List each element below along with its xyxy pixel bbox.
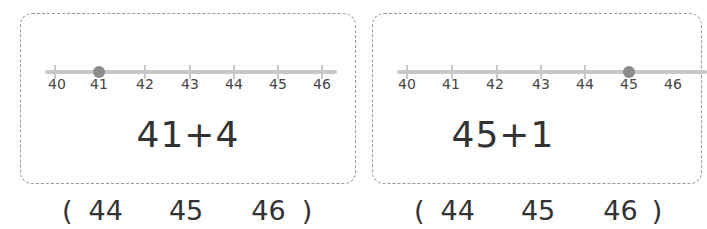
open-paren: ( (414, 195, 425, 226)
choice-option[interactable]: 44 (89, 195, 123, 226)
choice-option[interactable]: 45 (169, 195, 203, 226)
tick-label: 42 (486, 76, 504, 92)
choice-option[interactable]: 46 (603, 195, 637, 226)
math-expression: 41+4 (21, 114, 355, 155)
choice-option[interactable]: 46 (251, 195, 285, 226)
choice-option[interactable]: 45 (521, 195, 555, 226)
tick-label: 40 (398, 76, 416, 92)
close-paren: ) (302, 195, 313, 226)
tick-label: 45 (620, 76, 638, 92)
tick-label: 44 (225, 76, 243, 92)
tick-label: 41 (442, 76, 460, 92)
tick-label: 40 (48, 76, 66, 92)
number-line (45, 70, 337, 74)
tick-label: 46 (664, 76, 682, 92)
tick-label: 43 (532, 76, 550, 92)
tick-label: 41 (90, 76, 108, 92)
problem-card-1: 40 41 42 43 44 45 46 41+4 (20, 13, 356, 184)
answer-choices-1: ( 44 45 46 ) (62, 195, 312, 226)
choice-option[interactable]: 44 (441, 195, 475, 226)
answer-choices-2: ( 44 45 46 ) (414, 195, 662, 226)
number-line (397, 70, 707, 74)
problem-card-2: 40 41 42 43 44 45 46 45+1 (372, 13, 702, 184)
open-paren: ( (62, 195, 73, 226)
tick-label: 44 (576, 76, 594, 92)
tick-label: 45 (269, 76, 287, 92)
math-expression: 45+1 (373, 114, 633, 155)
close-paren: ) (652, 195, 663, 226)
tick-label: 42 (136, 76, 154, 92)
tick-label: 43 (181, 76, 199, 92)
tick-label: 46 (313, 76, 331, 92)
